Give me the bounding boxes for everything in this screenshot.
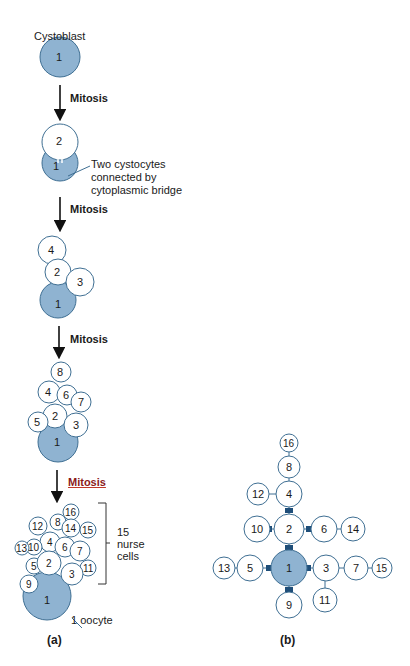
cell-label: 10 [251,523,263,536]
cell-label: 8 [57,366,63,379]
cell-label: 5 [34,416,40,429]
cell-label: 1 [44,594,50,607]
oocyte-label: 1 oocyte [71,614,113,627]
cell-label: 2 [46,557,52,570]
cell-label: 8 [286,461,292,474]
cell-label: 2 [286,523,292,536]
cell-label: 4 [47,536,53,549]
cell-label: 7 [353,562,359,575]
cell-label: 11 [319,594,330,607]
cell-label: 14 [65,522,76,535]
bridge-annotation-1: Two cystocytes [91,158,166,171]
cell-label: 9 [26,578,32,591]
panel-a-tag: (a) [47,634,62,647]
panel-b-tag: (b) [280,634,295,647]
cell-label: 10 [28,541,39,554]
cystoblast-label: Cystoblast [34,30,85,43]
cell-label: 7 [78,396,84,409]
cell-label: 1 [54,436,60,449]
cell-label: 3 [77,276,83,289]
cell-label: 1 [56,51,62,64]
cell-label: 4 [45,386,51,399]
bridge-annotation-2: connected by [91,171,156,184]
cell-label: 9 [286,599,292,612]
cell-label: 2 [54,266,60,279]
cell-label: 3 [69,568,75,581]
cell-label: 12 [32,520,43,533]
cell-label: 1 [286,562,292,575]
cell-label: 5 [247,562,253,575]
cell-label: 16 [283,437,294,450]
cell-label: 3 [323,562,329,575]
cell-label: 3 [73,419,79,432]
mitosis-label-2: Mitosis [70,203,108,216]
cell-label: 6 [321,523,327,536]
mitosis-label-4: Mitosis [68,476,106,489]
cell-label: 16 [65,506,76,519]
cell-label: 11 [83,562,93,575]
cell-label: 5 [31,560,37,573]
cell-label: 13 [16,542,27,555]
cell-label: 4 [48,244,54,257]
cell-label: 8 [55,516,61,529]
panel-b-graph [213,434,392,618]
cell-label: 1 [53,160,59,173]
nurse-cells-label-2: cells [117,550,139,563]
cell-label: 14 [347,523,359,536]
cell-label: 6 [63,389,69,402]
cell-label: 2 [56,135,62,148]
cell-label: 13 [218,562,230,575]
cell-label: 4 [286,488,292,501]
cell-label: 12 [252,488,264,501]
cell-label: 2 [52,410,58,423]
bridge-annotation-3: cytoplasmic bridge [91,184,182,197]
diagram-canvas [0,0,410,666]
mitosis-label-3: Mitosis [70,333,108,346]
mitosis-label-1: Mitosis [70,92,108,105]
cell-label: 7 [77,545,83,558]
cell-label: 15 [376,562,387,575]
cell-label: 6 [62,541,68,554]
cell-label: 15 [82,524,93,537]
cell-label: 1 [55,298,61,311]
